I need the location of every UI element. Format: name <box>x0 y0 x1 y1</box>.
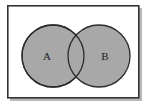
venn-diagram-figure: A B <box>0 0 153 112</box>
set-a-label: A <box>43 50 51 62</box>
set-b-circle <box>68 25 130 87</box>
venn-diagram-canvas: A B <box>0 0 153 112</box>
set-b-label: B <box>101 50 108 62</box>
